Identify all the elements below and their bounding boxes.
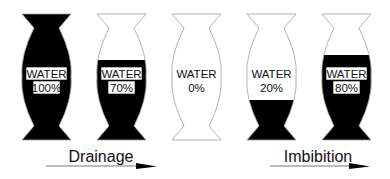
imbibition-label: Imbibition [284,148,352,165]
drainage-label: Drainage [69,148,134,165]
vessel-label: WATER [176,68,216,80]
vessel-value: 80% [335,82,358,94]
vessel-100: WATER 100% [17,14,77,140]
vessel-20: WATER 20% [242,14,302,140]
vessel-label: WATER [251,68,291,80]
water-saturation-diagram: WATER 100% WATER 70% WATER 0% WATER 20% [0,0,390,179]
vessel-0: WATER 0% [172,14,222,140]
vessel-label: WATER [326,68,366,80]
vessel-value: 100% [32,82,61,94]
vessel-value: 20% [260,82,283,94]
vessel-80: WATER 80% [317,14,377,140]
vessel-value: 0% [188,82,205,94]
vessel-label: WATER [101,68,141,80]
arrowhead-icon [136,163,157,169]
drainage-arrow: Drainage [46,148,157,169]
vessel-label: WATER [26,68,66,80]
vessel-value: 70% [110,82,133,94]
imbibition-arrow: Imbibition [270,148,370,169]
vessel-70: WATER 70% [92,14,152,140]
arrowhead-icon [349,163,370,169]
